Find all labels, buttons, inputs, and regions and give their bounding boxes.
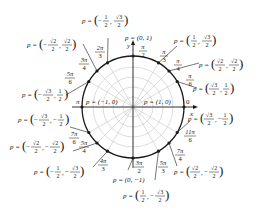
svg-text:(: (	[205, 80, 209, 95]
svg-text:,: ,	[220, 86, 222, 94]
svg-text:3: 3	[161, 167, 164, 174]
angle-label-5pi-over-6: 5π 6	[65, 70, 75, 85]
svg-text:4π: 4π	[100, 157, 107, 164]
svg-text:,: ,	[198, 38, 200, 46]
svg-text:√3: √3	[206, 112, 212, 118]
svg-text:): )	[229, 110, 233, 125]
point-label-7pi-over-6: p = ( − √3 2 , − 1 2 )	[17, 111, 69, 127]
svg-text:,: ,	[215, 116, 217, 124]
svg-text:2: 2	[74, 173, 77, 179]
svg-text:): )	[124, 12, 128, 27]
svg-text:√3: √3	[211, 82, 217, 88]
svg-text:−: −	[53, 116, 57, 124]
svg-text:−: −	[34, 116, 38, 124]
svg-text:2: 2	[54, 148, 57, 154]
point-label-0-1: p = (0, 1)	[124, 34, 153, 42]
svg-text:√2: √2	[64, 38, 70, 44]
svg-text:√2: √2	[231, 58, 237, 64]
svg-text:π: π	[176, 57, 180, 64]
svg-text:p =: p =	[122, 192, 133, 200]
svg-text:3: 3	[162, 56, 165, 63]
svg-text:2: 2	[224, 120, 227, 126]
svg-text:(: (	[135, 187, 139, 202]
svg-text:1: 1	[225, 82, 228, 88]
svg-text:4: 4	[178, 155, 182, 162]
svg-text:2: 2	[118, 22, 121, 28]
svg-text:): )	[165, 187, 169, 202]
svg-text:√2: √2	[211, 165, 217, 171]
svg-text:2: 2	[193, 42, 196, 48]
angle-label-7pi-over-4: 7π 4	[175, 147, 185, 162]
svg-text:2: 2	[43, 121, 46, 127]
svg-text:1: 1	[105, 14, 108, 20]
svg-text:√3: √3	[41, 113, 47, 119]
svg-text:1: 1	[142, 189, 145, 195]
svg-text:): )	[230, 80, 234, 95]
svg-text:2: 2	[35, 148, 38, 154]
svg-text:p =: p =	[198, 61, 209, 69]
svg-text:1: 1	[193, 34, 196, 40]
svg-text:6: 6	[188, 136, 192, 143]
svg-text:6: 6	[68, 78, 72, 85]
svg-text:2: 2	[213, 90, 216, 96]
svg-text:3: 3	[101, 165, 104, 172]
svg-text:π: π	[188, 72, 192, 79]
svg-text:11π: 11π	[185, 128, 195, 135]
svg-text:p =: p =	[17, 116, 28, 124]
svg-text:2: 2	[208, 120, 211, 126]
svg-text:2: 2	[59, 96, 62, 102]
svg-text:2: 2	[52, 46, 55, 52]
angle-label-pi: π	[76, 98, 80, 106]
point-label-5pi-over-6: p = ( − √3 2 , 1 2 )	[21, 86, 68, 102]
svg-text:−: −	[38, 91, 42, 99]
svg-text:√3: √3	[45, 88, 51, 94]
svg-text:(: (	[186, 32, 190, 47]
svg-text:p =: p =	[187, 115, 198, 123]
point-label-7pi-over-4: p = ( √2 2 , − √2 2 )	[173, 163, 223, 179]
svg-text:,: ,	[42, 144, 44, 152]
svg-text:2: 2	[194, 173, 197, 179]
svg-text:−: −	[26, 143, 30, 151]
svg-text:,: ,	[59, 42, 61, 50]
svg-text:2: 2	[225, 90, 228, 96]
svg-text:−: −	[218, 115, 222, 123]
svg-text:√2: √2	[50, 38, 56, 44]
svg-text:√2: √2	[217, 58, 223, 64]
point-label-pi-over-6: p = ( √3 2 , 1 2 )	[192, 80, 234, 96]
svg-text:(: (	[211, 56, 215, 71]
svg-text:): )	[64, 86, 68, 101]
svg-text:3: 3	[98, 52, 101, 59]
svg-text:,: ,	[54, 92, 56, 100]
svg-text:2π: 2π	[97, 44, 104, 51]
svg-text:√2: √2	[33, 140, 39, 146]
point-label-pi-over-4: p = ( √2 2 , √2 2 )	[198, 56, 243, 72]
angle-label-11pi-over-6: 11π 6	[184, 128, 196, 143]
svg-text:√3: √3	[72, 165, 78, 171]
angle-label-2pi-over-3: 2π 3	[95, 44, 105, 59]
svg-text:2: 2	[142, 197, 145, 203]
svg-text:,: ,	[201, 169, 203, 177]
svg-text:1: 1	[224, 112, 227, 118]
svg-text:2: 2	[137, 167, 140, 174]
point-label-m1-0: p = (−1, 0)	[85, 98, 118, 106]
svg-text:,: ,	[50, 117, 52, 125]
svg-text:(: (	[200, 110, 204, 125]
angle-label-pi-over-4: π 4	[174, 57, 182, 72]
svg-text:,: ,	[226, 62, 228, 70]
x-axis-arrow-icon	[193, 105, 198, 109]
svg-text:p =: p =	[173, 37, 184, 45]
svg-text:2: 2	[47, 96, 50, 102]
svg-text:3π: 3π	[80, 56, 88, 63]
angle-label-7pi-over-6: 7π 6	[69, 130, 79, 145]
svg-text:2: 2	[219, 66, 222, 72]
svg-text:7π: 7π	[177, 147, 184, 154]
svg-text:): )	[60, 138, 64, 153]
svg-text:2: 2	[66, 46, 69, 52]
svg-text:3π: 3π	[135, 159, 143, 166]
svg-text:−: −	[204, 168, 208, 176]
svg-text:): )	[65, 111, 69, 126]
svg-text:4: 4	[176, 65, 180, 72]
angle-label-4pi-over-3: 4π 3	[98, 157, 108, 172]
point-label-2pi-over-3: p = ( − 1 2 , √3 2 )	[81, 12, 128, 28]
svg-text:2: 2	[233, 66, 236, 72]
